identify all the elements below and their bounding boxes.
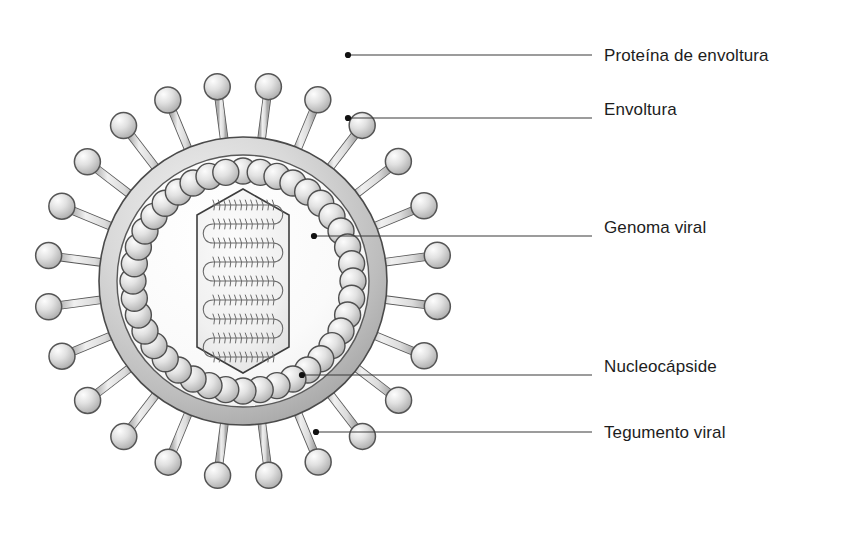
envelope-protein-spike <box>325 387 376 449</box>
envelope-protein-spike <box>294 87 331 157</box>
leader-dot-envelope-protein <box>345 52 351 58</box>
envelope-protein-spike <box>367 332 437 369</box>
leader-dot-nucleocapsid <box>299 372 305 378</box>
label-envelope: Envoltura <box>604 101 677 118</box>
envelope-protein-spike <box>111 113 162 175</box>
envelope-protein-spike <box>255 74 281 148</box>
label-viral-genome: Genoma viral <box>604 219 706 236</box>
virus-illustration <box>0 0 845 553</box>
label-viral-tegument: Tegumento viral <box>604 424 726 441</box>
envelope-protein-spike <box>367 193 437 230</box>
envelope-protein-spike <box>294 405 331 475</box>
envelope-protein-spike <box>155 87 192 157</box>
envelope-protein-spike <box>75 363 137 414</box>
envelope-protein-spike <box>49 193 119 230</box>
tegument-bead <box>213 159 239 185</box>
envelope-protein-spike <box>376 293 450 319</box>
label-nucleocapsid: Nucleocápside <box>604 358 717 375</box>
nucleocapsid <box>197 189 289 373</box>
envelope-protein-spike <box>205 414 231 488</box>
envelope-protein-spike <box>349 149 411 200</box>
envelope-protein-spike <box>74 149 136 200</box>
envelope-protein-spike <box>256 414 282 488</box>
envelope-protein-spike <box>36 243 110 269</box>
leader-dot-viral-genome <box>311 233 317 239</box>
label-envelope-protein: Proteína de envoltura <box>604 47 769 64</box>
envelope-protein-spike <box>155 405 192 475</box>
leader-dot-viral-tegument <box>313 429 319 435</box>
viral-genome <box>203 200 283 362</box>
envelope-protein-spike <box>111 387 162 449</box>
envelope-protein-spike <box>349 362 411 413</box>
envelope-protein-spike <box>49 332 119 369</box>
envelope-protein-spike <box>324 112 375 174</box>
envelope-protein-spike <box>376 242 450 268</box>
envelope-protein-spike <box>204 74 230 148</box>
leader-dot-envelope <box>345 115 351 121</box>
envelope-protein-spike <box>36 294 110 320</box>
virus-diagram-figure: Proteína de envoltura Envoltura Genoma v… <box>0 0 845 553</box>
